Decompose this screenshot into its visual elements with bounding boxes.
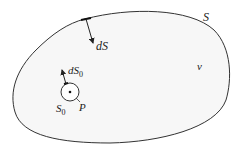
outer-surface-boundary	[13, 11, 230, 143]
label-volume-v: v	[197, 60, 202, 72]
label-surface-s: S	[203, 10, 209, 24]
point-p-dot	[69, 91, 72, 94]
label-point-p: P	[78, 101, 86, 113]
label-ds: dS	[96, 39, 108, 53]
diagram-canvas: S v dS dS0 S0 P	[0, 0, 242, 148]
